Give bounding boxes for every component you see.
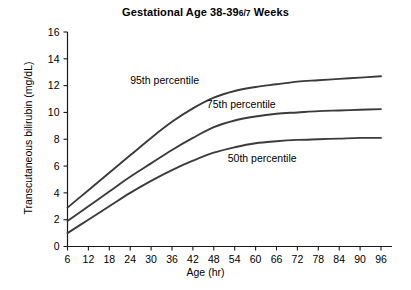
series-label: 95th percentile — [130, 74, 199, 86]
x-tick-label: 66 — [271, 253, 283, 265]
series-label: 75th percentile — [207, 98, 276, 110]
x-tick-label: 90 — [354, 253, 366, 265]
y-tick-label: 10 — [48, 106, 60, 118]
x-tick-label: 60 — [250, 253, 262, 265]
x-tick-label: 6 — [65, 253, 71, 265]
chart-figure: Gestational Age 38-396/7 Weeks Transcuta… — [0, 0, 411, 290]
y-tick-label: 2 — [54, 213, 60, 225]
y-tick-label: 14 — [48, 53, 60, 65]
data-curve-2 — [68, 109, 382, 221]
plot-area: 0246810121416 61218243036424854606672788… — [0, 0, 411, 290]
x-tick-label: 78 — [312, 253, 324, 265]
y-tick-label: 8 — [54, 133, 60, 145]
x-axis-ticks: 6121824303642485460667278849096 — [65, 247, 387, 265]
x-tick-label: 72 — [292, 253, 304, 265]
x-tick-label: 12 — [83, 253, 95, 265]
x-tick-label: 96 — [375, 253, 387, 265]
x-tick-label: 48 — [208, 253, 220, 265]
x-tick-label: 54 — [229, 253, 241, 265]
y-tick-label: 4 — [54, 187, 60, 199]
data-curve-3 — [68, 138, 382, 233]
y-tick-label: 12 — [48, 79, 60, 91]
series-label: 50th percentile — [228, 152, 297, 164]
y-tick-label: 16 — [48, 26, 60, 38]
x-tick-label: 84 — [333, 253, 345, 265]
curve-labels: 95th percentile75th percentile50th perce… — [130, 74, 297, 164]
x-tick-label: 18 — [103, 253, 115, 265]
x-tick-label: 24 — [124, 253, 136, 265]
x-tick-label: 42 — [187, 253, 199, 265]
x-tick-label: 36 — [166, 253, 178, 265]
y-axis-ticks: 0246810121416 — [48, 26, 68, 253]
x-tick-label: 30 — [145, 253, 157, 265]
y-tick-label: 0 — [54, 240, 60, 252]
y-tick-label: 6 — [54, 160, 60, 172]
